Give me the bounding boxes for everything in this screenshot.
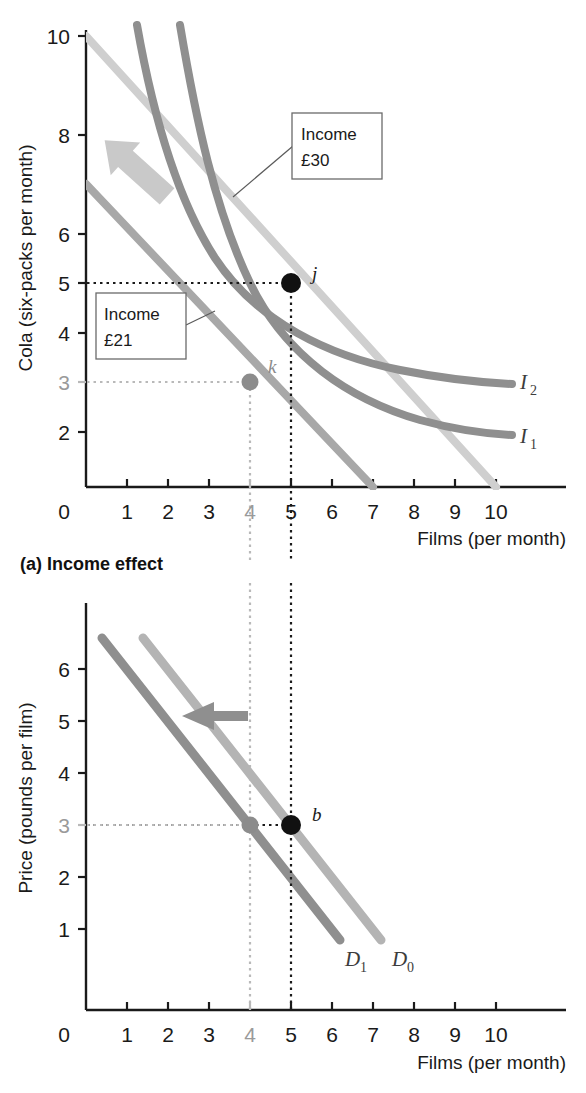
panel-a-x-tick-7: 7: [367, 500, 379, 523]
panel-b-y-tick-2: 2: [58, 866, 70, 889]
curve-label-i1-sub: 1: [530, 437, 537, 452]
panel-b-x-tick-9: 9: [449, 1023, 461, 1046]
point-b-marker: [281, 815, 301, 835]
panel-a-x-tick-4: 4: [244, 500, 256, 523]
point-k-label: k: [268, 356, 277, 377]
curve-label-d1-sub: 1: [360, 960, 367, 975]
panel-b-x-tick-10: 10: [484, 1023, 507, 1046]
point-j-marker: [281, 273, 301, 293]
panel-a-y-tick-4: 4: [58, 322, 70, 345]
indifference-curve-i1: [180, 25, 512, 435]
panel-a-x-axis-title: Films (per month): [417, 528, 566, 549]
curve-label-d1: D 1: [344, 947, 367, 975]
panel-a-y-axis-title: Cola (six-packs per month): [15, 144, 36, 371]
panel-a-y-tick-2: 2: [58, 421, 70, 444]
panel-b-y-tick-5: 5: [58, 710, 70, 733]
curve-label-d0-sub: 0: [407, 960, 414, 975]
panel-b-x-axis-title: Films (per month): [417, 1052, 566, 1073]
panel-b-origin-label: 0: [58, 1023, 70, 1046]
callout-income-30-line1: Income: [301, 125, 357, 144]
point-b-label: b: [312, 804, 322, 825]
panel-a-y-tick-10: 10: [47, 25, 70, 48]
curve-label-d0-base: D: [391, 947, 407, 971]
panel-b-x-tick-4: 4: [244, 1023, 256, 1046]
panel-a-caption: (a) Income effect: [20, 554, 163, 574]
panel-a-x-tick-3: 3: [203, 500, 215, 523]
panel-a-y-tick-6: 6: [58, 223, 70, 246]
panel-b-y-tick-3: 3: [58, 814, 70, 837]
panel-a-x-tick-8: 8: [408, 500, 420, 523]
panel-b-x-tick-3: 3: [203, 1023, 215, 1046]
panel-b-y-tick-6: 6: [58, 658, 70, 681]
panel-b-y-tick-1: 1: [58, 918, 70, 941]
panel-a-y-tick-3: 3: [58, 371, 70, 394]
curve-label-i1-base: I: [519, 424, 528, 448]
curve-label-i1: I 1: [519, 424, 537, 452]
callout-income-21-line2: £21: [104, 331, 132, 350]
income-effect-figure: j k I 2 I 1 Income £30 Income £21 10 8 6: [0, 0, 586, 1093]
point-k-marker: [242, 374, 259, 391]
panel-b-y-tick-4: 4: [58, 762, 70, 785]
panel-b-x-tick-8: 8: [408, 1023, 420, 1046]
panel-a-x-tick-1: 1: [121, 500, 133, 523]
panel-b-y-axis-title: Price (pounds per film): [15, 702, 36, 893]
panel-b-x-tick-5: 5: [285, 1023, 297, 1046]
callout-income-21-line1: Income: [104, 305, 160, 324]
curve-label-i2: I 2: [519, 370, 537, 398]
callout-income-30: Income £30: [233, 113, 382, 197]
curve-label-d1-base: D: [344, 947, 360, 971]
panel-a-x-tick-5: 5: [285, 500, 297, 523]
panel-a-x-tick-2: 2: [162, 500, 174, 523]
panel-b-x-tick-1: 1: [121, 1023, 133, 1046]
panel-b-chart: b D 1 D 0 6 5 4 3 2 1 0 1 2 3 4 5 6 7 8 …: [0, 583, 586, 1093]
point-d1-marker: [242, 817, 259, 834]
curve-label-d0: D 0: [391, 947, 414, 975]
panel-a-x-tick-9: 9: [449, 500, 461, 523]
callout-income-30-line2: £30: [301, 151, 329, 170]
curve-label-i2-base: I: [519, 370, 528, 394]
budget-line-income-30: [86, 36, 496, 487]
panel-a-x-tick-6: 6: [326, 500, 338, 523]
curve-label-i2-sub: 2: [530, 383, 537, 398]
panel-a-y-tick-8: 8: [58, 124, 70, 147]
demand-curve-d1: [102, 638, 340, 940]
panel-b-x-tick-2: 2: [162, 1023, 174, 1046]
panel-a-origin-label: 0: [58, 500, 70, 523]
panel-b-x-tick-7: 7: [367, 1023, 379, 1046]
panel-a-chart: j k I 2 I 1 Income £30 Income £21 10 8 6: [0, 0, 586, 590]
panel-b-guides: [87, 825, 291, 1010]
panel-b-x-tick-6: 6: [326, 1023, 338, 1046]
panel-a-y-tick-5: 5: [58, 272, 70, 295]
demand-curve-d0: [143, 638, 381, 940]
panel-a-x-tick-10: 10: [484, 500, 507, 523]
